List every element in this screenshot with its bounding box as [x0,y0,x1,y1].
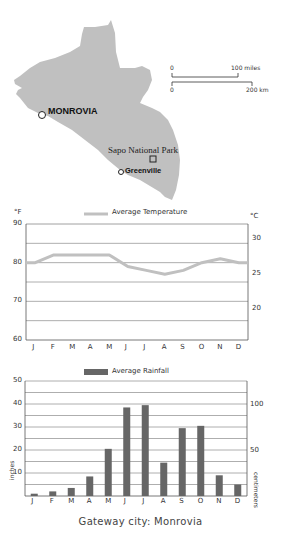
greenville-label: Greenville [125,166,161,175]
rain-legend-label: Average Rainfall [112,367,169,375]
park-label: Sapo National Park [108,145,178,155]
rain-ytick-right: 50 [250,446,259,454]
rain-xtick: J [31,497,33,505]
rain-xtick: J [124,497,126,505]
scale-km-end: 200 km [246,86,269,93]
rain-bar [179,428,186,496]
temp-xtick: F [51,343,55,351]
rain-bar [105,449,112,496]
rain-bar [86,476,93,496]
caption: Gateway city: Monrovia [0,516,281,527]
temp-xtick: A [88,343,93,351]
temp-xtick: J [143,343,145,351]
temp-xtick: J [125,343,127,351]
rain-bar [142,405,149,496]
temp-ytick-right: 20 [252,304,261,312]
temp-xtick: O [199,343,205,351]
rain-ytick-left: 40 [13,399,22,407]
scale-miles-start: 0 [170,64,174,71]
temp-ytick-left: 60 [13,335,22,343]
temp-ytick-left: 70 [13,296,22,304]
rain-xtick: M [105,497,111,505]
rain-xtick: D [235,497,240,505]
temp-xtick: S [180,343,184,351]
scale-bar-km [172,82,252,86]
monrovia-marker-icon [39,112,46,119]
temp-legend-label: Average Temperature [112,208,187,216]
rain-right-unit: centimeters [253,472,260,508]
rain-xtick: N [216,497,221,505]
rain-xtick: A [87,497,92,505]
temp-left-unit: °F [14,208,22,216]
rain-ytick-left: 50 [13,376,22,384]
monrovia-label: MONROVIA [48,106,98,116]
rain-xtick: A [161,497,166,505]
rain-ytick-left: 30 [13,422,22,430]
temp-ytick-right: 30 [252,234,261,242]
rain-bar [216,475,223,496]
temp-xtick: A [162,343,167,351]
temp-xtick: N [217,343,222,351]
rain-xtick: M [68,497,74,505]
rain-bar [31,494,38,496]
rain-bar [49,491,56,496]
scale-km-start: 0 [170,86,174,93]
map [0,0,281,210]
rain-bar [234,485,241,497]
rain-xtick: O [198,497,204,505]
rain-xtick: S [179,497,183,505]
scale-miles-end: 100 miles [231,64,260,71]
temp-ytick-right: 25 [252,269,261,277]
rain-xtick: F [50,497,54,505]
rain-bar [160,463,167,496]
temp-ytick-left: 90 [13,219,22,227]
rain-bar [197,426,204,496]
temp-xtick: D [236,343,241,351]
temp-xtick: M [69,343,75,351]
temp-xtick: M [106,343,112,351]
temp-ytick-left: 80 [13,258,22,266]
rain-bar [68,488,75,496]
temp-right-unit: °C [250,212,258,220]
rain-ytick-left: 20 [13,445,22,453]
rain-ytick-right: 100 [250,400,263,408]
greenville-marker-icon [119,170,124,175]
rain-xtick: J [142,497,144,505]
scale-bar-miles [172,73,238,77]
rain-bar [123,407,130,496]
rain-ytick-left: 10 [13,468,22,476]
temp-xtick: J [32,343,34,351]
